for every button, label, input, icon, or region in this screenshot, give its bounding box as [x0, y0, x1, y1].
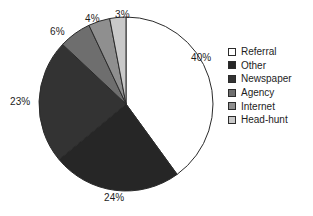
- legend: ReferralOtherNewspaperAgencyInternetHead…: [228, 45, 312, 127]
- pie-chart-figure: 40% 24% 23% 6% 4% 3% ReferralOtherNewspa…: [0, 0, 313, 216]
- legend-swatch-newspaper: [228, 75, 236, 83]
- legend-swatch-referral: [228, 48, 236, 56]
- legend-swatch-other: [228, 61, 236, 69]
- slice-label-referral: 40%: [191, 52, 211, 63]
- legend-item-internet[interactable]: Internet: [228, 99, 312, 113]
- legend-item-newspaper[interactable]: Newspaper: [228, 72, 312, 86]
- pie-svg: [38, 16, 214, 192]
- legend-label-newspaper: Newspaper: [241, 73, 292, 84]
- legend-label-internet: Internet: [241, 101, 275, 112]
- legend-item-head-hunt[interactable]: Head-hunt: [228, 113, 312, 127]
- pie-chart-plot-area: [38, 16, 214, 192]
- legend-item-agency[interactable]: Agency: [228, 86, 312, 100]
- legend-label-other: Other: [241, 60, 266, 71]
- legend-swatch-head-hunt: [228, 116, 236, 124]
- pie-slice-group: [39, 17, 213, 191]
- legend-swatch-internet: [228, 102, 236, 110]
- slice-label-other: 24%: [104, 192, 124, 203]
- legend-label-referral: Referral: [241, 46, 277, 57]
- legend-label-head-hunt: Head-hunt: [241, 114, 288, 125]
- slice-label-headhunt: 3%: [115, 9, 130, 20]
- slice-label-internet: 4%: [85, 13, 100, 24]
- legend-item-other[interactable]: Other: [228, 59, 312, 73]
- slice-label-agency: 6%: [50, 26, 65, 37]
- legend-swatch-agency: [228, 89, 236, 97]
- legend-label-agency: Agency: [241, 87, 274, 98]
- legend-item-referral[interactable]: Referral: [228, 45, 312, 59]
- slice-label-newspaper: 23%: [10, 96, 30, 107]
